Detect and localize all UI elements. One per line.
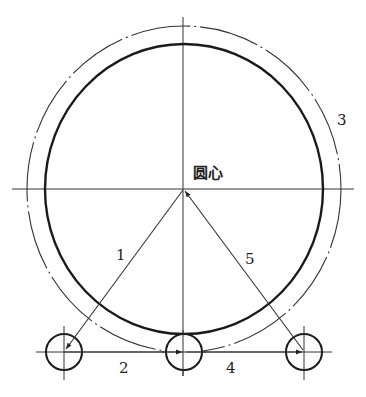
arrow-path-5 xyxy=(185,191,303,350)
small-circle-middle xyxy=(162,330,206,376)
label-outer-circle: 3 xyxy=(337,113,347,128)
label-path-5: 5 xyxy=(245,252,255,267)
label-path-1: 1 xyxy=(116,248,126,263)
center-label: 圆心 xyxy=(193,166,223,181)
label-path-4: 4 xyxy=(226,361,236,376)
diagram-graphic xyxy=(0,0,366,397)
arrow-path-1 xyxy=(66,190,183,349)
diagram-canvas: 圆心 1 5 3 2 4 xyxy=(0,0,366,397)
label-path-2: 2 xyxy=(119,361,129,376)
